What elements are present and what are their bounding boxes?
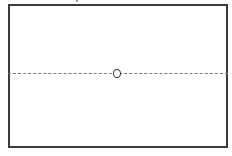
center-circle-icon <box>113 69 121 78</box>
top-tick-mark <box>76 0 78 2</box>
